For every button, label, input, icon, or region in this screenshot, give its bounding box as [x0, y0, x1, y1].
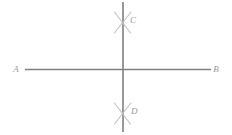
label-point-b: B: [213, 64, 219, 74]
label-point-a: A: [12, 64, 19, 74]
geometry-diagram: A B C D: [0, 0, 232, 135]
label-point-c: C: [130, 15, 137, 25]
geometry-canvas: A B C D: [0, 0, 232, 135]
label-point-d: D: [130, 106, 138, 116]
